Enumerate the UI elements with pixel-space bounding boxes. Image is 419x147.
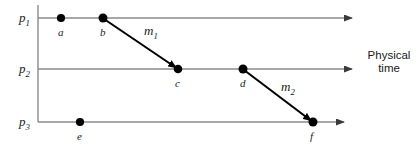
event-dot-c [174, 65, 183, 74]
process-label-p2-sub: 2 [26, 69, 30, 79]
event-dot-d [239, 65, 248, 74]
event-dot-e [76, 118, 84, 126]
event-label-a: a [58, 27, 64, 38]
message-label-m2-base: m [281, 79, 290, 94]
space-time-diagram: p1 p2 p3 a b c d e f m1 m2 Physical time [0, 0, 419, 147]
message-label-m1: m1 [144, 24, 158, 40]
diagram-canvas [0, 0, 419, 147]
process-label-p1-sub: 1 [26, 18, 30, 28]
physical-time-caption: Physical time [361, 49, 417, 75]
event-label-e: e [77, 131, 82, 142]
process-label-p3: p3 [19, 115, 30, 131]
event-dot-f [309, 118, 318, 127]
event-dot-b [99, 14, 108, 23]
message-label-m1-sub: 1 [153, 31, 157, 41]
event-label-d: d [240, 78, 246, 89]
process-label-p1: p1 [19, 11, 30, 27]
message-label-m2: m2 [281, 80, 295, 96]
event-dot-a [57, 14, 65, 22]
message-arrow-m1 [104, 19, 177, 68]
event-label-f: f [310, 131, 313, 142]
event-label-b: b [100, 27, 106, 38]
message-label-m2-sub: 2 [290, 87, 294, 97]
process-label-p2: p2 [19, 62, 30, 78]
event-label-c: c [175, 78, 180, 89]
process-label-p3-sub: 3 [26, 122, 30, 132]
message-arrow-m2 [244, 70, 312, 121]
message-label-m1-base: m [144, 23, 153, 38]
